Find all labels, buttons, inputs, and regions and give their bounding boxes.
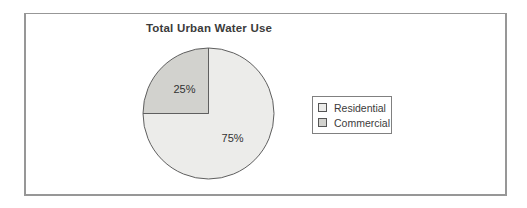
pie-slice-label: 25% — [173, 83, 195, 95]
legend-item-label: Residential — [334, 102, 386, 114]
legend-swatch-commercial — [318, 118, 327, 127]
legend-swatch-residential — [318, 103, 327, 112]
legend-items: ResidentialCommercial — [318, 100, 387, 130]
legend-item-commercial: Commercial — [318, 115, 387, 130]
legend-item-label: Commercial — [334, 117, 390, 129]
pie-chart-svg: 75%25% — [142, 47, 275, 180]
pie-slice-label: 75% — [222, 132, 244, 144]
pie-chart: 75%25% — [142, 47, 275, 180]
chart-title: Total Urban Water Use — [128, 22, 290, 34]
legend-item-residential: Residential — [318, 100, 387, 115]
legend: ResidentialCommercial — [312, 96, 392, 134]
pie-slice-commercial — [143, 48, 209, 114]
